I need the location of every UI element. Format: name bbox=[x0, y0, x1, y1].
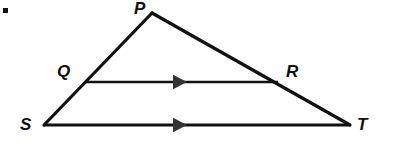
geometry-figure: P Q R S T bbox=[0, 0, 393, 154]
triangle-outline bbox=[44, 13, 350, 125]
parallel-segment-st bbox=[44, 118, 350, 133]
parallel-arrow-mark-qr bbox=[173, 75, 187, 90]
vertex-label-s: S bbox=[20, 116, 31, 133]
parallel-arrow-mark-st bbox=[173, 118, 187, 133]
vertex-label-p: P bbox=[134, 0, 145, 17]
vertex-label-t: T bbox=[357, 116, 367, 133]
parallel-segment-qr bbox=[85, 75, 278, 90]
vertex-label-r: R bbox=[286, 63, 298, 80]
vertex-label-q: Q bbox=[57, 63, 70, 80]
segment-p-to-t bbox=[152, 13, 350, 125]
